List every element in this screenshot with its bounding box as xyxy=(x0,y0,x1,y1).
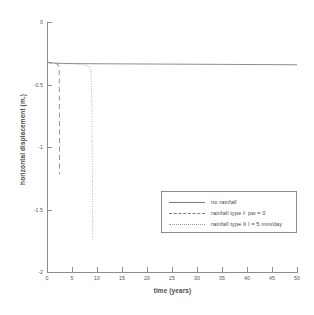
x-tick-label: 10 xyxy=(87,275,107,281)
chart-series-line xyxy=(47,62,60,175)
legend-item-label: rainfall type I: pw = 0 xyxy=(211,210,265,217)
x-tick-mark xyxy=(297,267,298,272)
y-tick-label: 0 xyxy=(21,19,43,25)
x-axis-title: time (years) xyxy=(47,287,298,294)
legend-item: rainfall type I: pw = 0 xyxy=(162,208,296,219)
y-tick-mark xyxy=(47,272,52,273)
x-tick-label: 35 xyxy=(212,275,232,281)
legend-line-glyph xyxy=(169,224,205,225)
legend-line-sample-solid xyxy=(169,198,205,207)
chart-legend: no rainfallrainfall type I: pw = 0rainfa… xyxy=(161,191,297,233)
legend-item: no rainfall xyxy=(162,197,296,208)
chart-figure: 0-0.5-1-1.5-2 05101520253035404550 horiz… xyxy=(0,0,314,315)
legend-line-sample-dashed xyxy=(169,209,205,218)
x-tick-label: 50 xyxy=(287,275,307,281)
legend-item: rainfall type II I = 5 mm/day xyxy=(162,219,296,230)
x-tick-label: 25 xyxy=(162,275,182,281)
chart-series-line xyxy=(47,62,297,65)
legend-line-sample-dotted xyxy=(169,220,205,229)
legend-line-glyph xyxy=(169,202,205,203)
y-axis-title: horizontal displacement (m.) xyxy=(19,55,26,225)
x-tick-label: 30 xyxy=(187,275,207,281)
x-tick-label: 40 xyxy=(237,275,257,281)
x-tick-label: 15 xyxy=(112,275,132,281)
legend-item-label: rainfall type II I = 5 mm/day xyxy=(211,221,282,228)
x-tick-label: 0 xyxy=(37,275,57,281)
chart-series-line xyxy=(47,62,93,241)
x-tick-label: 45 xyxy=(262,275,282,281)
x-tick-label: 5 xyxy=(62,275,82,281)
legend-line-glyph xyxy=(169,213,205,214)
x-tick-label: 20 xyxy=(137,275,157,281)
chart-series-group xyxy=(47,22,297,272)
x-axis-line xyxy=(47,272,298,273)
legend-item-label: no rainfall xyxy=(211,199,237,206)
